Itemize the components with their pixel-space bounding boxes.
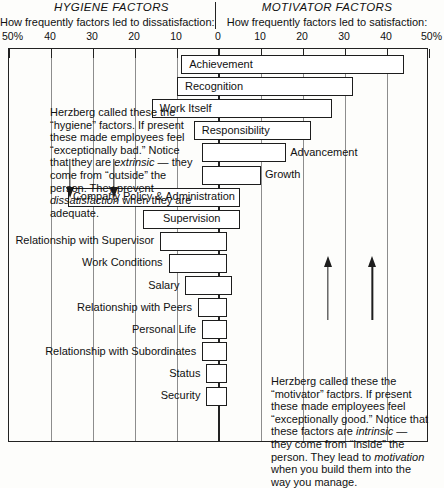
bar xyxy=(198,298,227,317)
up-arrow-icon xyxy=(322,256,334,320)
axis-tick-label: 20 xyxy=(128,30,140,42)
axis-tickmark xyxy=(135,49,136,58)
axis-tickmark xyxy=(9,49,10,58)
hygiene-factors-subtitle: How frequently factors led to dissatisfa… xyxy=(0,16,214,28)
bar xyxy=(160,232,227,251)
bar-label: Relationship with Subordinates xyxy=(45,346,196,357)
bar-label: Status xyxy=(169,368,200,379)
bar xyxy=(185,276,231,295)
plot-area: AchievementRecognitionWork ItselfRespons… xyxy=(8,48,428,442)
axis-tick-label: 0 xyxy=(215,30,221,42)
axis-tick-label: 10 xyxy=(254,30,266,42)
axis-tick-label: 30 xyxy=(86,30,98,42)
arrow-head xyxy=(368,256,376,267)
up-arrow-icon xyxy=(366,256,378,320)
axis-tick-label: 20 xyxy=(296,30,308,42)
arrow-shaft xyxy=(328,265,329,320)
bar xyxy=(206,364,227,383)
bar-label: Personal Life xyxy=(132,324,196,335)
bar-label: Work Conditions xyxy=(82,257,163,268)
axis-tick-labels: 50%4030201001020304050% xyxy=(0,30,444,44)
bar-label: Achievement xyxy=(189,59,253,70)
bar-label: Recognition xyxy=(185,81,243,92)
hygiene-explanation-note: Herzberg called these the “hygiene” fact… xyxy=(50,106,200,219)
axis-tick-label: 40 xyxy=(380,30,392,42)
bar-label: Security xyxy=(161,390,201,401)
bar xyxy=(202,143,286,162)
bar-label: Growth xyxy=(265,169,300,180)
bar-label: Salary xyxy=(148,280,179,291)
axis-tickmark xyxy=(51,49,52,58)
axis-tick-label: 50% xyxy=(421,30,442,42)
hygiene-factors-title: HYGIENE FACTORS xyxy=(8,1,215,13)
header-divider xyxy=(215,2,216,29)
motivator-factors-title: MOTIVATOR FACTORS xyxy=(218,1,436,13)
bar xyxy=(202,342,227,361)
bar-label: Relationship with Supervisor xyxy=(15,235,154,246)
bar xyxy=(169,254,228,273)
bar xyxy=(202,166,261,185)
bar-label: Responsibility xyxy=(202,125,270,136)
axis-tickmark xyxy=(177,49,178,58)
axis-tick-label: 50% xyxy=(2,30,23,42)
axis-tick-label: 30 xyxy=(338,30,350,42)
bar xyxy=(202,320,227,339)
axis-tickmark xyxy=(429,49,430,58)
arrow-head xyxy=(324,256,332,267)
axis-tick-label: 40 xyxy=(44,30,56,42)
axis-tickmark xyxy=(93,49,94,58)
bar xyxy=(206,387,227,406)
motivator-factors-subtitle: How frequently factors led to satisfacti… xyxy=(218,16,436,28)
motivator-explanation-note: Herzberg called these the “motivator” fa… xyxy=(271,375,431,488)
axis-tick-label: 10 xyxy=(170,30,182,42)
bar-label: Relationship with Peers xyxy=(77,302,192,313)
bar-label: Advancement xyxy=(290,147,357,158)
arrow-shaft xyxy=(372,265,373,320)
